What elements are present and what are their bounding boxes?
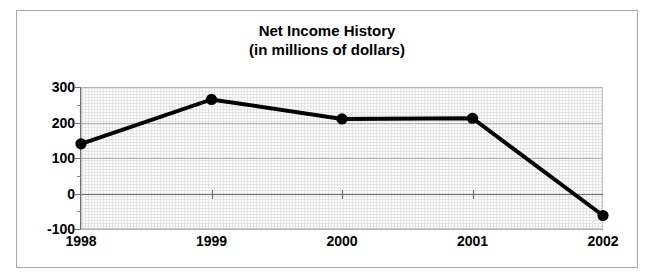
x-tick-label-2000: 2000 bbox=[326, 233, 357, 249]
data-point-1999 bbox=[206, 94, 217, 105]
chart-title: Net Income History bbox=[17, 21, 637, 40]
series-markers bbox=[75, 94, 608, 221]
y-tick-label-0: 0 bbox=[67, 187, 75, 201]
data-point-1998 bbox=[75, 138, 86, 149]
chart-figure: Net Income History (in millions of dolla… bbox=[16, 10, 638, 268]
y-tick-label-100: 100 bbox=[52, 151, 75, 165]
chart-subtitle: (in millions of dollars) bbox=[17, 40, 637, 59]
x-tick-label-2001: 2001 bbox=[457, 233, 488, 249]
data-point-2000 bbox=[336, 113, 347, 124]
data-point-2001 bbox=[467, 113, 478, 124]
y-axis-labels: 3002001000-100 bbox=[17, 87, 75, 229]
x-tick-label-1998: 1998 bbox=[65, 233, 96, 249]
x-tick-label-2002: 2002 bbox=[587, 233, 618, 249]
data-point-2002 bbox=[597, 210, 608, 221]
data-series-net-income bbox=[81, 87, 603, 229]
chart-title-block: Net Income History (in millions of dolla… bbox=[17, 21, 637, 59]
x-tick-label-1999: 1999 bbox=[196, 233, 227, 249]
y-tick-label-300: 300 bbox=[52, 80, 75, 94]
plot-wrap bbox=[81, 87, 603, 229]
gridline--100 bbox=[81, 229, 603, 230]
y-tick-label-200: 200 bbox=[52, 116, 75, 130]
